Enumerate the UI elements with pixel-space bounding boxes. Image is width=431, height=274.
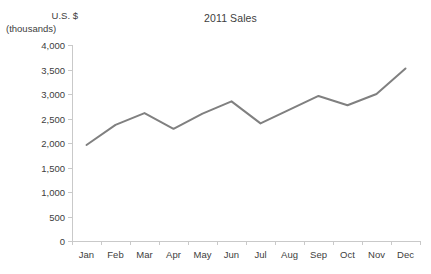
x-axis-tick (130, 241, 131, 245)
x-axis-tick-label: Jun (224, 249, 239, 260)
x-axis-tick-label: May (194, 249, 212, 260)
x-axis-tick (304, 241, 305, 245)
line-chart-figure: 2011 Sales U.S. $ (thousands) 4,0003,500… (0, 0, 431, 274)
x-axis-tick (246, 241, 247, 245)
y-axis-title: U.S. $ (thousands) (6, 10, 84, 35)
x-axis-tick (275, 241, 276, 245)
x-axis-tick (333, 241, 334, 245)
x-axis-tick (72, 241, 73, 245)
x-axis-tick-label: Mar (136, 249, 152, 260)
x-axis-tick (420, 241, 421, 245)
y-axis-tick-label: 500 (49, 211, 65, 222)
x-axis-tick-label: Nov (368, 249, 385, 260)
y-axis-tick-label: 2,000 (41, 138, 65, 149)
x-axis-tick (159, 241, 160, 245)
x-axis-tick-label: Dec (397, 249, 414, 260)
y-axis-tick-label: 1,500 (41, 162, 65, 173)
y-axis-title-line-2: (thousands) (6, 23, 84, 36)
y-axis-tick-label: 3,000 (41, 89, 65, 100)
plot-area: 4,0003,5003,0002,5002,0001,5001,0005000 … (72, 45, 420, 241)
x-axis-tick-label: Apr (166, 249, 181, 260)
y-axis-tick-label: 3,500 (41, 64, 65, 75)
y-axis-tick-label: 4,000 (41, 40, 65, 51)
x-axis-tick-label: Jan (79, 249, 94, 260)
x-axis-tick (101, 241, 102, 245)
x-axis-tick-label: Aug (281, 249, 298, 260)
x-axis-tick-label: Oct (340, 249, 355, 260)
x-axis-tick (188, 241, 189, 245)
y-axis-tick-label: 0 (60, 236, 65, 247)
x-axis-tick (217, 241, 218, 245)
x-axis-tick-label: Sep (310, 249, 327, 260)
x-axis-tick-label: Feb (107, 249, 123, 260)
y-axis-tick-label: 2,500 (41, 113, 65, 124)
y-axis-tick-label: 1,000 (41, 187, 65, 198)
y-axis-title-line-1: U.S. $ (6, 10, 84, 23)
x-axis-tick (362, 241, 363, 245)
series-line-2011-sales (72, 45, 420, 241)
x-axis-tick-label: Jul (254, 249, 266, 260)
x-axis-tick (391, 241, 392, 245)
